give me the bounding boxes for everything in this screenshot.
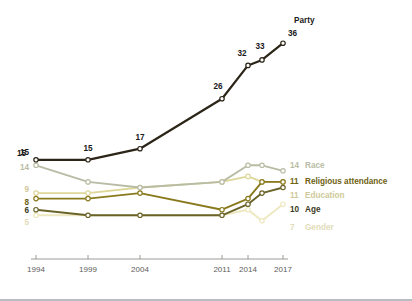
data-point bbox=[220, 208, 224, 212]
data-point bbox=[86, 213, 90, 217]
legend-item-gender: 7Gender bbox=[290, 223, 334, 232]
data-point bbox=[34, 163, 38, 167]
data-point bbox=[281, 41, 285, 45]
party-value-label: 17 bbox=[135, 133, 145, 142]
left-label-race: 14 bbox=[20, 163, 30, 172]
legend-value: 11 bbox=[290, 191, 299, 200]
data-point bbox=[260, 163, 264, 167]
party-value-label: 36 bbox=[288, 29, 298, 38]
data-point bbox=[34, 158, 38, 162]
x-axis: 199419992004201120142017 bbox=[27, 255, 292, 274]
x-tick-label: 2004 bbox=[131, 265, 149, 274]
x-tick-label: 2017 bbox=[274, 265, 292, 274]
x-tick-label: 1999 bbox=[79, 265, 97, 274]
data-point bbox=[220, 97, 224, 101]
data-point bbox=[246, 202, 250, 206]
legend-label: Education bbox=[305, 191, 345, 200]
series-legend-labels: 14Race11Religious attendance11Education1… bbox=[290, 16, 388, 232]
data-point bbox=[260, 180, 264, 184]
data-point bbox=[246, 63, 250, 67]
x-tick-label: 2014 bbox=[239, 265, 257, 274]
legend-label: Age bbox=[305, 205, 321, 214]
legend-item-religious-attendance: 11Religious attendance bbox=[290, 177, 388, 186]
legend-value: 11 bbox=[290, 177, 299, 186]
data-point bbox=[246, 208, 250, 212]
data-point bbox=[86, 191, 90, 195]
data-point bbox=[34, 196, 38, 200]
legend-value: 10 bbox=[290, 205, 300, 214]
party-value-label: 32 bbox=[237, 49, 247, 58]
data-point bbox=[260, 191, 264, 195]
data-point bbox=[220, 180, 224, 184]
series-party bbox=[34, 41, 285, 162]
data-point bbox=[220, 213, 224, 217]
data-point bbox=[260, 219, 264, 223]
left-label-age: 6 bbox=[24, 206, 29, 215]
legend-item-age: 10Age bbox=[290, 205, 321, 214]
data-point bbox=[246, 196, 250, 200]
data-point bbox=[34, 191, 38, 195]
data-point bbox=[281, 185, 285, 189]
line-chart: 15151726323336 15148965 14Race11Religiou… bbox=[0, 0, 412, 301]
left-label-education: 9 bbox=[24, 185, 29, 194]
data-point bbox=[246, 163, 250, 167]
x-tick-label: 1994 bbox=[27, 265, 45, 274]
party-value-label: 15 bbox=[83, 144, 93, 153]
data-point bbox=[138, 185, 142, 189]
series-layer bbox=[34, 41, 285, 223]
data-point bbox=[281, 180, 285, 184]
data-point bbox=[281, 202, 285, 206]
legend-value: 14 bbox=[290, 161, 300, 170]
chart-container: 15151726323336 15148965 14Race11Religiou… bbox=[0, 0, 412, 301]
data-point bbox=[138, 147, 142, 151]
data-point bbox=[260, 58, 264, 62]
data-point bbox=[86, 180, 90, 184]
left-label-gender: 5 bbox=[24, 218, 29, 227]
legend-item-education: 11Education bbox=[290, 191, 345, 200]
left-value-labels: 15148965 bbox=[20, 148, 30, 228]
data-point bbox=[86, 158, 90, 162]
legend-label-party: Party bbox=[294, 16, 315, 25]
series-age bbox=[34, 185, 285, 217]
legend-label: Gender bbox=[305, 223, 334, 232]
data-point bbox=[138, 213, 142, 217]
party-value-label: 26 bbox=[213, 82, 223, 91]
legend-label: Religious attendance bbox=[305, 177, 388, 186]
legend-item-race: 14Race bbox=[290, 161, 325, 170]
legend-value: 7 bbox=[290, 223, 295, 232]
data-point bbox=[86, 196, 90, 200]
data-point bbox=[281, 169, 285, 173]
data-point bbox=[138, 191, 142, 195]
left-label-party: 15 bbox=[20, 148, 30, 157]
data-point bbox=[246, 174, 250, 178]
legend-label: Race bbox=[305, 161, 325, 170]
x-tick-label: 2011 bbox=[213, 265, 231, 274]
data-point bbox=[34, 208, 38, 212]
data-point bbox=[34, 213, 38, 217]
party-value-label: 33 bbox=[255, 42, 265, 51]
